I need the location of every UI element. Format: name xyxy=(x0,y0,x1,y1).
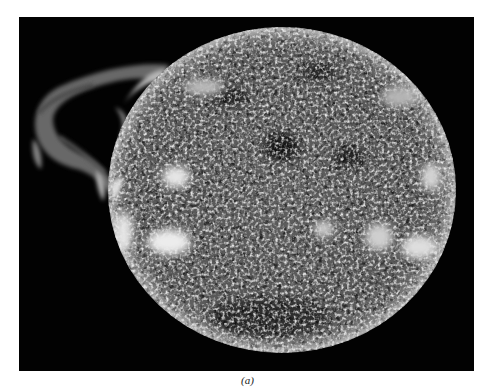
figure-caption: (a) xyxy=(0,373,495,387)
solar-image-frame xyxy=(19,17,474,371)
sun-image xyxy=(19,17,474,371)
solar-disk xyxy=(19,17,474,371)
